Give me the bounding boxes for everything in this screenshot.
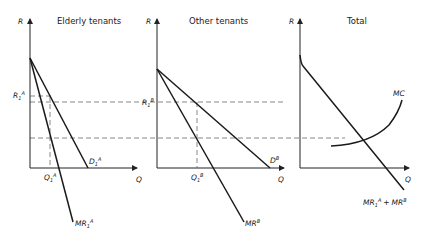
price-discrimination-diagram: R Q Elderly tenants R1A Q1A D1A MR1A R Q…	[0, 0, 426, 239]
x-axis-label: Q	[136, 175, 142, 184]
mr-curve-b	[157, 69, 244, 222]
combined-mr-curve	[300, 55, 404, 190]
panel-other-tenants: R Q Other tenants R1B Q1B DB MRB	[142, 16, 284, 228]
r1-a-label: R1A	[13, 90, 25, 101]
x-axis-label: Q	[405, 175, 411, 184]
demand-b-label: DB	[270, 155, 280, 165]
panel-elderly-tenants: R Q Elderly tenants R1A Q1A D1A MR1A	[13, 16, 142, 229]
mc-label: MC	[393, 89, 405, 98]
y-axis-label: R	[18, 17, 23, 26]
mr-a-label: MR1A	[75, 218, 94, 229]
combined-mr-label: MR1A+MRB	[363, 197, 407, 208]
demand-curve-b	[157, 69, 270, 168]
q1-a-label: Q1A	[44, 172, 57, 183]
demand-curve-a	[30, 58, 88, 168]
y-axis-label: R	[146, 17, 151, 26]
x-axis-label: Q	[278, 175, 284, 184]
mr-b-label: MRB	[245, 218, 261, 228]
panel-title: Other tenants	[189, 16, 249, 26]
r1-b-label: R1B	[142, 97, 154, 108]
mc-curve	[331, 100, 402, 146]
y-axis-label: R	[289, 17, 294, 26]
demand-a-label: D1A	[89, 156, 102, 167]
panel-total: R Q Total MC MR1A+MRB	[289, 16, 411, 208]
panel-title: Elderly tenants	[57, 16, 122, 26]
mr-curve-a	[30, 58, 73, 222]
q1-b-label: Q1B	[191, 172, 204, 183]
panel-title: Total	[346, 16, 367, 26]
